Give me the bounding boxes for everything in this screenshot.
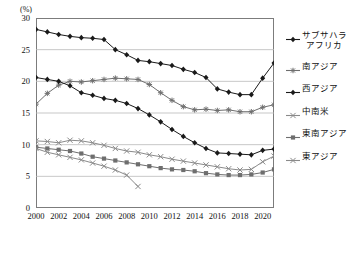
series-2	[36, 75, 274, 158]
y-tick-5: 5	[0, 171, 34, 181]
legend-label-line1: サブサハラ	[302, 30, 347, 40]
y-tick-15: 15	[0, 108, 34, 118]
x-tick-2010: 2010	[141, 211, 158, 221]
plot-area	[36, 18, 274, 208]
y-axis-tick-labels: 051015202530	[0, 18, 34, 208]
series-canvas	[36, 18, 274, 208]
x-tick-2012: 2012	[164, 211, 181, 221]
legend-item-4[interactable]: 東南アジア	[286, 128, 356, 140]
legend-label-line1: 南アジア	[302, 61, 338, 71]
x-tick-2014: 2014	[186, 211, 203, 221]
y-tick-30: 30	[0, 13, 34, 23]
legend-item-2[interactable]: 西アジア	[286, 83, 356, 95]
legend-label-line1: 東南アジア	[302, 128, 347, 138]
x-tick-2002: 2002	[50, 211, 67, 221]
legend-marker-star-icon	[286, 62, 302, 73]
x-tick-2020: 2020	[254, 211, 271, 221]
y-tick-25: 25	[0, 45, 34, 55]
legend-marker-cross-icon	[286, 152, 302, 163]
legend-label-1: 南アジア	[302, 61, 338, 71]
y-tick-20: 20	[0, 76, 34, 86]
chart-root: (%) 051015202530 20002002200420062008201…	[0, 0, 356, 257]
x-axis-tick-labels: 2000200220042006200820102012201420162018…	[36, 211, 274, 227]
legend-label-line2: アフリカ	[306, 40, 347, 50]
legend-label-line1: 東アジア	[302, 151, 338, 161]
x-tick-2006: 2006	[96, 211, 113, 221]
legend-item-0[interactable]: サブサハラアフリカ	[286, 30, 356, 50]
legend-item-3[interactable]: 中南米	[286, 106, 356, 118]
legend-marker-diamond-icon	[286, 31, 302, 42]
x-tick-2016: 2016	[209, 211, 226, 221]
legend-marker-cross-icon	[286, 107, 302, 118]
x-tick-2018: 2018	[232, 211, 249, 221]
legend-label-5: 東アジア	[302, 151, 338, 161]
legend-marker-diamond-icon	[286, 84, 302, 95]
x-tick-2000: 2000	[28, 211, 45, 221]
x-tick-2008: 2008	[118, 211, 135, 221]
legend-label-3: 中南米	[302, 106, 329, 116]
legend-label-line1: 西アジア	[302, 83, 338, 93]
legend-item-1[interactable]: 南アジア	[286, 61, 356, 73]
x-tick-2004: 2004	[73, 211, 90, 221]
legend-label-2: 西アジア	[302, 83, 338, 93]
legend-label-0: サブサハラアフリカ	[302, 30, 347, 50]
legend-label-line1: 中南米	[302, 106, 329, 116]
legend-label-4: 東南アジア	[302, 128, 347, 138]
y-tick-10: 10	[0, 140, 34, 150]
legend-marker-square-icon	[286, 129, 302, 140]
chart-legend: サブサハラアフリカ南アジア西アジア中南米東南アジア東アジア	[286, 30, 356, 173]
legend-item-5[interactable]: 東アジア	[286, 151, 356, 163]
